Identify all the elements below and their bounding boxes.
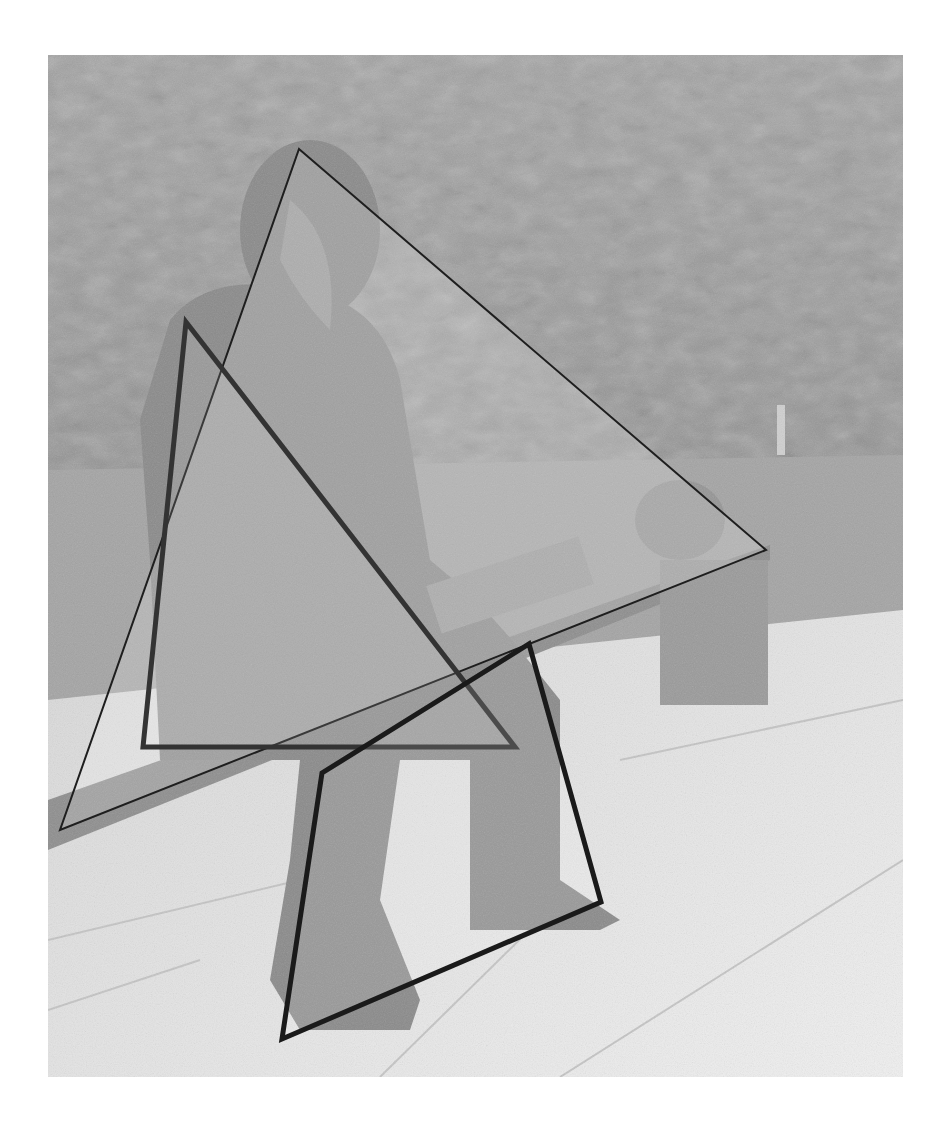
polygon-overlay [48, 55, 903, 1077]
photo [48, 55, 903, 1077]
